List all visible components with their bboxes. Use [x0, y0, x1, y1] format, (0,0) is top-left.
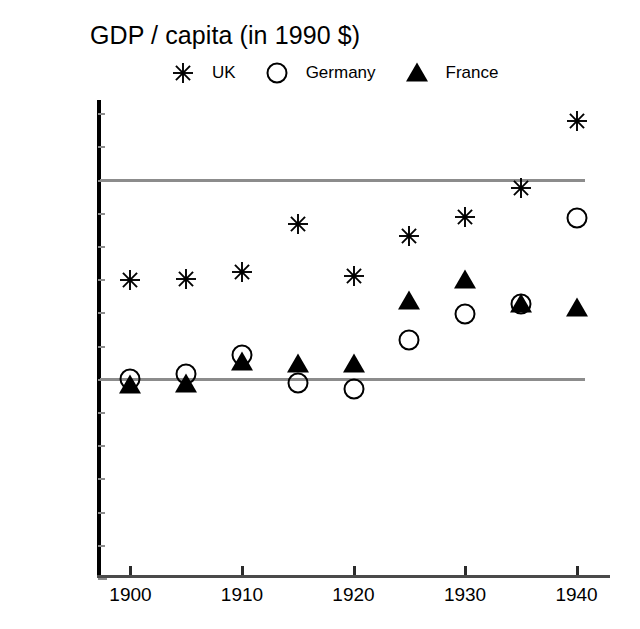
legend-label-france: France — [432, 63, 525, 83]
x-tick-1930 — [464, 566, 467, 575]
x-axis-label-1900: 1900 — [109, 584, 151, 606]
data-point-france-1905 — [175, 374, 197, 393]
data-point-uk-1900 — [119, 269, 141, 291]
y-tick-minor — [98, 346, 105, 348]
data-point-germany-1915 — [287, 372, 308, 393]
data-point-uk-1905 — [175, 268, 197, 290]
data-point-germany-1920 — [343, 378, 364, 399]
plot-area: 030006000 19001910192019301940 — [97, 100, 610, 578]
data-point-france-1915 — [287, 353, 309, 372]
x-axis-label-1930: 1930 — [444, 584, 486, 606]
data-point-france-1940 — [566, 297, 588, 316]
data-point-france-1920 — [343, 354, 365, 373]
y-tick-minor — [98, 545, 105, 547]
y-tick-minor — [98, 312, 105, 314]
data-point-uk-1915 — [287, 213, 309, 235]
x-axis-label-1940: 1940 — [555, 584, 597, 606]
y-tick-minor — [98, 146, 105, 148]
legend-circle-icon — [262, 62, 292, 84]
x-axis-label-1910: 1910 — [221, 584, 263, 606]
data-point-france-1935 — [510, 293, 532, 312]
y-tick-major — [98, 379, 107, 381]
data-point-france-1900 — [119, 375, 141, 394]
data-point-france-1910 — [231, 352, 253, 371]
x-tick-1940 — [576, 566, 579, 575]
y-tick-minor — [98, 246, 105, 248]
legend-label-germany: Germany — [292, 63, 402, 83]
data-point-germany-1930 — [455, 303, 476, 324]
legend-entry-france: France — [402, 62, 525, 84]
x-axis-label-1920: 1920 — [332, 584, 374, 606]
y-tick-major — [98, 180, 107, 182]
x-tick-1900 — [129, 566, 132, 575]
y-tick-minor — [98, 478, 105, 480]
data-point-uk-1920 — [343, 265, 365, 287]
chart-legend: UKGermanyFrance — [168, 62, 524, 84]
data-point-france-1930 — [454, 269, 476, 288]
legend-entry-uk: UK — [168, 62, 262, 84]
x-tick-1910 — [241, 566, 244, 575]
data-point-france-1925 — [398, 291, 420, 310]
legend-entry-germany: Germany — [262, 62, 402, 84]
gridline-3000 — [100, 378, 585, 381]
data-point-uk-1910 — [231, 261, 253, 283]
y-tick-minor — [98, 512, 105, 514]
y-tick-minor — [98, 113, 105, 115]
legend-asterisk-icon — [168, 62, 198, 84]
y-tick-minor — [98, 445, 105, 447]
y-tick-major — [98, 578, 107, 580]
y-tick-minor — [98, 213, 105, 215]
data-point-uk-1930 — [454, 206, 476, 228]
y-tick-minor — [98, 279, 105, 281]
gdp-per-capita-chart: GDP / capita (in 1990 $) UKGermanyFrance… — [0, 0, 640, 629]
data-point-uk-1940 — [566, 110, 588, 132]
y-axis-line — [97, 100, 101, 578]
legend-triangle-icon — [402, 62, 432, 84]
data-point-germany-1940 — [566, 207, 587, 228]
x-tick-1920 — [353, 566, 356, 575]
legend-label-uk: UK — [198, 63, 262, 83]
chart-title: GDP / capita (in 1990 $) — [90, 21, 360, 50]
data-point-uk-1935 — [510, 177, 532, 199]
data-point-germany-1925 — [399, 330, 420, 351]
data-point-uk-1925 — [398, 225, 420, 247]
y-tick-minor — [98, 412, 105, 414]
x-axis-line — [97, 575, 610, 578]
